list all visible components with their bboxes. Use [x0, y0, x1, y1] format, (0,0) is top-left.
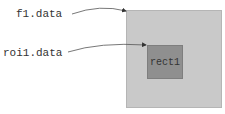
- f1-arrow: [72, 8, 126, 14]
- roi1-arrow: [68, 44, 146, 52]
- arrows: [0, 0, 225, 114]
